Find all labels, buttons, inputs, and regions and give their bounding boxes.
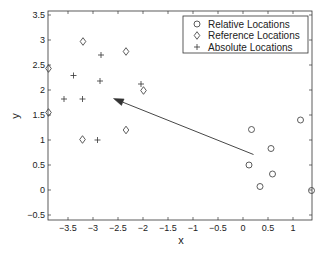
y-tick-label: 0.5 bbox=[32, 160, 45, 170]
legend-label: Absolute Locations bbox=[208, 42, 293, 53]
x-tick-label: −1 bbox=[188, 223, 198, 233]
x-tick-label: −2.5 bbox=[109, 223, 127, 233]
scatter-chart: −3.5−3−2.5−2−1.5−1−0.500.51 −0.500.511.5… bbox=[0, 0, 330, 255]
x-tick-label: −1.5 bbox=[159, 223, 177, 233]
x-axis-label: x bbox=[178, 234, 184, 246]
x-tick-label: −0.5 bbox=[209, 223, 227, 233]
y-tick-label: 2 bbox=[40, 85, 45, 95]
legend: Relative LocationsReference LocationsAbs… bbox=[183, 16, 308, 53]
y-tick-label: 2.5 bbox=[32, 60, 45, 70]
y-tick-label: −0.5 bbox=[27, 210, 45, 220]
y-tick-label: 1 bbox=[40, 135, 45, 145]
y-tick-label: 1.5 bbox=[32, 110, 45, 120]
x-tick-label: −3 bbox=[88, 223, 98, 233]
x-tick-label: 0.5 bbox=[262, 223, 275, 233]
x-tick-label: 1 bbox=[290, 223, 295, 233]
x-tick-label: −2 bbox=[138, 223, 148, 233]
legend-label: Reference Locations bbox=[208, 30, 300, 41]
y-tick-label: 3 bbox=[40, 35, 45, 45]
legend-label: Relative Locations bbox=[208, 19, 290, 30]
y-tick-label: 3.5 bbox=[32, 10, 45, 20]
y-axis-label: y bbox=[9, 113, 21, 119]
y-tick-label: 0 bbox=[40, 185, 45, 195]
x-tick-label: 0 bbox=[240, 223, 245, 233]
x-tick-label: −3.5 bbox=[59, 223, 77, 233]
